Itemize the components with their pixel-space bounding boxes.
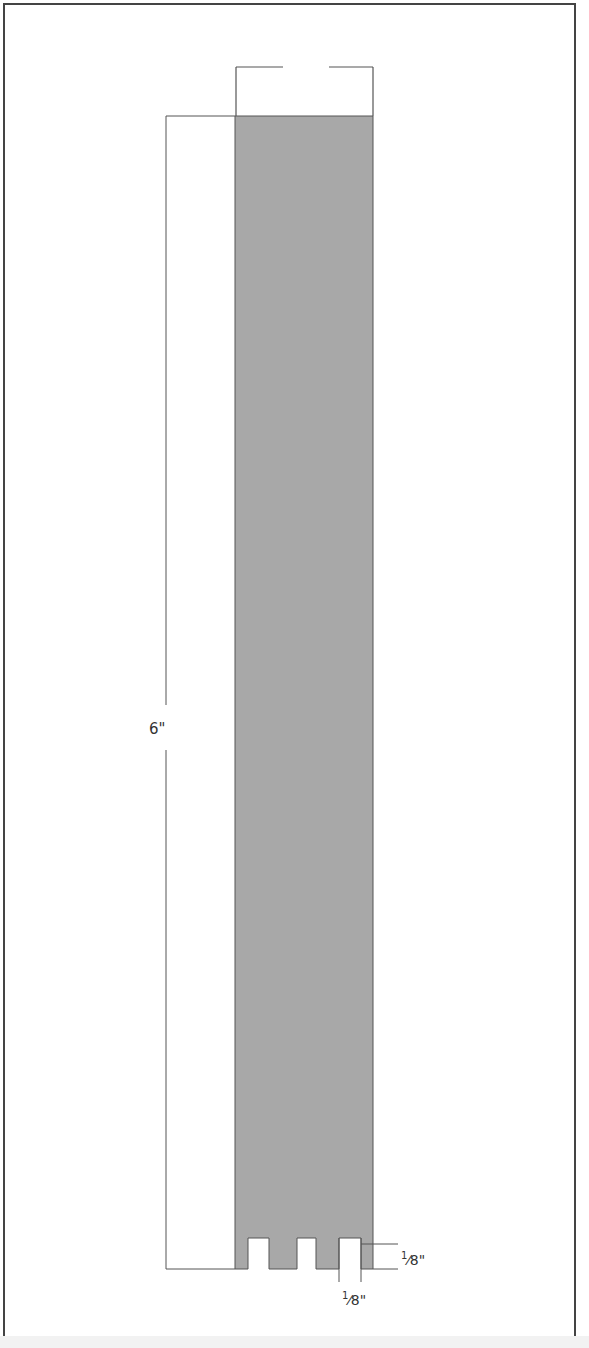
width-den: 8	[351, 1292, 360, 1308]
notch-width-dimension	[339, 1238, 361, 1282]
notch-width-label: 1⁄8"	[342, 1290, 366, 1308]
width-unit: "	[360, 1292, 366, 1308]
width-num: 1	[342, 1290, 348, 1301]
notch-depth-label: 1⁄8"	[401, 1250, 425, 1268]
depth-num: 1	[401, 1250, 407, 1261]
height-dimension	[166, 116, 235, 1269]
height-label: 6"	[149, 720, 165, 738]
drawing-canvas	[0, 0, 589, 1348]
depth-den: 8	[410, 1252, 419, 1268]
depth-unit: "	[419, 1252, 425, 1268]
top-bracket	[236, 67, 373, 116]
strip-body	[235, 116, 373, 1269]
